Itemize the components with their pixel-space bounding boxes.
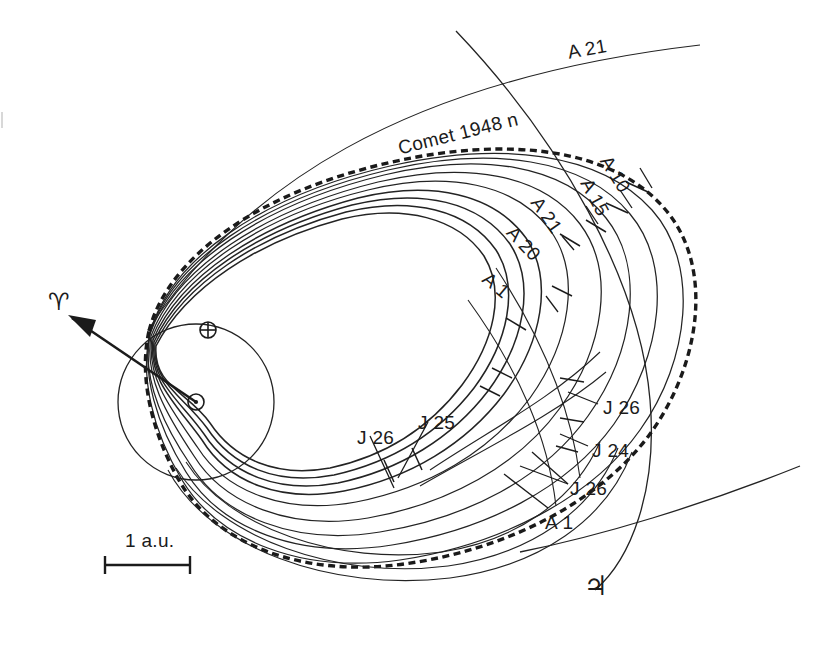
aries-symbol: ♈ bbox=[48, 288, 70, 316]
scale-bar-label: 1 a.u. bbox=[125, 530, 174, 552]
date-label-j26-left: J 26 bbox=[357, 427, 394, 449]
orbit-a1 bbox=[151, 181, 568, 505]
scale-bar bbox=[105, 556, 190, 574]
page-edge-artifact bbox=[1, 112, 3, 128]
orbit-diagram-figure: Comet 1948 n A 21 A 10 A 15 A 21 A 20 A … bbox=[0, 0, 837, 656]
orbit-a20 bbox=[150, 172, 601, 521]
orbit-cross-strand-1 bbox=[430, 352, 600, 470]
orbit-bundle-2 bbox=[154, 198, 524, 486]
jupiter-symbol: ♃ bbox=[584, 570, 608, 601]
date-label-j24-right: J 24 bbox=[592, 440, 629, 462]
vernal-equinox-arrowhead bbox=[68, 315, 96, 337]
orbit-plot-canvas bbox=[0, 0, 837, 656]
sun-symbol-center bbox=[194, 400, 198, 404]
date-label-j25-left: J 25 bbox=[418, 412, 455, 434]
orbit-lower-loop-3 bbox=[186, 442, 600, 555]
date-label-j26-lower: J 26 bbox=[570, 478, 607, 500]
date-label-a1-lower: A 1 bbox=[545, 512, 573, 534]
date-label-j26-right: J 26 bbox=[603, 397, 640, 419]
